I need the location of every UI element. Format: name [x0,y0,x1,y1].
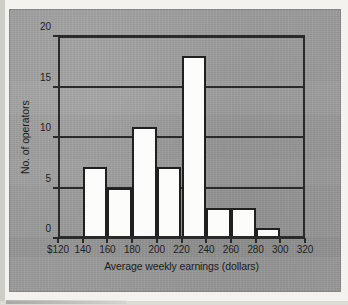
scan-edge-left [0,0,5,305]
axis-frame [58,36,305,238]
y-axis-tick-label: 20 [40,22,51,32]
x-axis-tick [106,238,108,243]
x-axis-tick-label: 160 [99,245,115,255]
x-axis-tick-label: 320 [297,245,313,255]
y-axis-tick [53,86,58,88]
y-axis-title: No. of operators [18,36,32,238]
x-axis-title: Average weekly earnings (dollars) [58,261,305,272]
x-axis-tick [82,238,84,243]
x-axis-tick [131,238,133,243]
y-axis-tick-label: 15 [40,73,51,83]
x-axis-tick [279,238,281,243]
y-axis-tick [53,35,58,37]
x-axis-tick-label: 200 [149,245,165,255]
y-axis-tick-label: 5 [46,174,51,184]
y-axis-tick-label: 10 [40,123,51,133]
plot-area: 05101520 $120140160180200220240260280300… [58,36,305,238]
x-axis-tick [230,238,232,243]
y-axis-title-label: No. of operators [20,100,31,174]
x-axis-tick-label: 140 [74,245,90,255]
y-axis-tick [53,187,58,189]
x-axis-tick [156,238,158,243]
y-axis-tick-label: 0 [46,224,51,234]
x-axis-tick [205,238,207,243]
scan-artifact [6,300,126,304]
x-axis-tick-label: $120 [47,245,69,255]
x-axis-tick-label: 300 [272,245,288,255]
x-axis-tick-label: 280 [247,245,263,255]
x-axis-tick-label: 180 [124,245,140,255]
x-axis-tick-label: 220 [173,245,189,255]
y-axis-tick [53,136,58,138]
figure-root: No. of operators 05101520 $1201401601802… [0,0,348,305]
x-axis-tick [181,238,183,243]
x-axis-tick [255,238,257,243]
chart-plate: No. of operators 05101520 $1201401601802… [9,9,341,292]
x-axis-tick [304,238,306,243]
x-axis-tick [57,238,59,243]
x-axis-tick-label: 240 [198,245,214,255]
x-axis-tick-label: 260 [223,245,239,255]
